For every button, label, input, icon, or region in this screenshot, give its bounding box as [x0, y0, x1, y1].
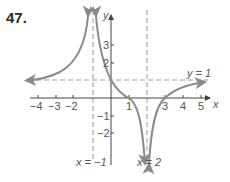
- y-tick-label: −1: [97, 110, 110, 122]
- x-tick-label: −2: [65, 100, 78, 112]
- right-branch: [149, 82, 205, 164]
- y-axis-label: y: [102, 9, 110, 21]
- asymptote-label-y-1: y = 1: [186, 67, 211, 79]
- x-axis-label: x: [212, 98, 219, 110]
- y-tick-label: 2: [103, 57, 109, 69]
- axes: [30, 15, 210, 165]
- rational-function-graph: y x −4 −3 −2 1 3 4 5 3 2 −1 −2 y = 1 x =…: [0, 0, 230, 182]
- x-tick-label: 4: [180, 100, 186, 112]
- x-tick-label: −3: [48, 100, 61, 112]
- asymptote-label-x-2: x = 2: [136, 156, 161, 168]
- x-tick-label: 5: [198, 100, 204, 112]
- asymptote-label-x-neg1: x = −1: [75, 156, 107, 168]
- left-branch: [26, 16, 88, 81]
- asymptotes: [28, 10, 208, 160]
- x-tick-label: −4: [30, 100, 43, 112]
- y-tick-label: −2: [97, 127, 110, 139]
- x-tick-label: 3: [162, 100, 168, 112]
- y-tick-label: 3: [103, 39, 109, 51]
- x-tick-label: 1: [126, 100, 132, 112]
- function-curves: [26, 16, 205, 164]
